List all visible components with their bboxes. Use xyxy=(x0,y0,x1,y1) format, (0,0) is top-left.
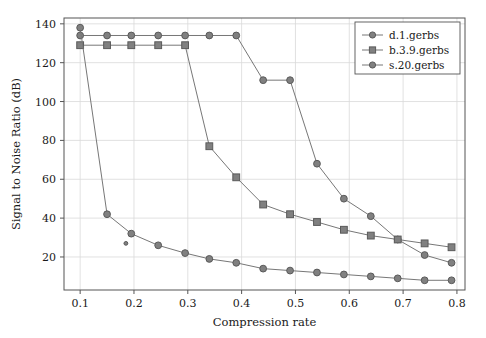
legend-label-b.3.9.gerbs: b.3.9.gerbs xyxy=(389,44,449,56)
data-point-marker xyxy=(206,32,213,39)
x-tick-label: 0.8 xyxy=(448,297,466,310)
data-point-marker xyxy=(394,275,401,282)
chart-figure: 204060801001201400.10.20.30.40.50.60.70.… xyxy=(0,0,486,338)
y-tick-label: 40 xyxy=(42,212,56,225)
data-point-marker xyxy=(155,42,162,49)
data-point-marker xyxy=(314,219,321,226)
x-tick-label: 0.5 xyxy=(287,297,305,310)
data-point-marker xyxy=(314,160,321,167)
data-point-marker xyxy=(260,201,267,208)
legend-label-d.1.gerbs: d.1.gerbs xyxy=(389,29,439,41)
y-axis-label: Signal to Noise Ratio (dB) xyxy=(9,78,23,230)
data-point-marker xyxy=(233,259,240,266)
data-point-marker xyxy=(128,230,135,237)
data-point-marker xyxy=(340,226,347,233)
x-tick-label: 0.2 xyxy=(125,297,143,310)
data-point-marker xyxy=(155,242,162,249)
data-point-marker xyxy=(448,244,455,251)
data-point-marker xyxy=(128,42,135,49)
data-point-marker xyxy=(421,240,428,247)
data-point-marker xyxy=(394,236,401,243)
data-point-marker xyxy=(421,252,428,259)
y-tick-label: 100 xyxy=(35,96,56,109)
data-point-marker xyxy=(182,250,189,257)
data-point-marker xyxy=(314,269,321,276)
data-point-marker xyxy=(77,24,84,31)
legend-marker-d.1.gerbs xyxy=(369,32,375,38)
data-point-marker xyxy=(77,32,84,39)
data-point-marker xyxy=(182,42,189,49)
snr-vs-compression-line-chart: 204060801001201400.10.20.30.40.50.60.70.… xyxy=(0,0,486,338)
x-tick-label: 0.4 xyxy=(233,297,251,310)
data-point-marker xyxy=(206,256,213,263)
legend: d.1.gerbsb.3.9.gerbss.20.gerbs xyxy=(355,22,460,74)
data-point-marker xyxy=(340,271,347,278)
data-point-marker xyxy=(260,265,267,272)
data-point-marker xyxy=(287,211,294,218)
outlier-marker xyxy=(124,241,128,245)
legend-label-s.20.gerbs: s.20.gerbs xyxy=(389,59,445,71)
x-tick-label: 0.3 xyxy=(179,297,197,310)
x-tick-label: 0.1 xyxy=(71,297,89,310)
data-point-marker xyxy=(104,42,111,49)
data-point-marker xyxy=(340,195,347,202)
legend-marker-b.3.9.gerbs xyxy=(369,47,375,53)
data-point-marker xyxy=(260,77,267,84)
data-point-marker xyxy=(155,32,162,39)
data-point-marker xyxy=(448,277,455,284)
y-tick-label: 140 xyxy=(35,18,56,31)
data-point-marker xyxy=(448,259,455,266)
data-point-marker xyxy=(287,267,294,274)
y-tick-label: 80 xyxy=(42,134,56,147)
y-tick-label: 60 xyxy=(42,173,56,186)
data-point-marker xyxy=(233,174,240,181)
data-point-marker xyxy=(367,273,374,280)
y-tick-label: 120 xyxy=(35,57,56,70)
x-axis-label: Compression rate xyxy=(213,315,317,329)
x-tick-label: 0.6 xyxy=(341,297,359,310)
data-point-marker xyxy=(104,211,111,218)
data-point-marker xyxy=(367,232,374,239)
x-tick-label: 0.7 xyxy=(394,297,412,310)
data-point-marker xyxy=(233,32,240,39)
data-point-marker xyxy=(206,143,213,150)
data-point-marker xyxy=(287,77,294,84)
legend-marker-s.20.gerbs xyxy=(369,62,375,68)
data-point-marker xyxy=(421,277,428,284)
data-point-marker xyxy=(104,32,111,39)
data-point-marker xyxy=(367,213,374,220)
data-point-marker xyxy=(128,32,135,39)
y-tick-label: 20 xyxy=(42,251,56,264)
data-point-marker xyxy=(182,32,189,39)
